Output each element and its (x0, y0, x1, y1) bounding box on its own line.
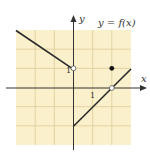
y-axis-label: y (78, 13, 85, 24)
x-tick-label: 1 (90, 91, 95, 100)
function-graph: y x y = f(x) 1 1 (0, 0, 150, 155)
open-point-0-1 (71, 66, 76, 71)
filled-point-2-1 (109, 66, 114, 71)
chart-title: y = f(x) (97, 17, 136, 28)
y-axis-arrow-icon (71, 15, 77, 22)
x-axis-arrow-icon (140, 85, 147, 91)
open-point-2-0 (109, 86, 114, 91)
x-axis-label: x (141, 73, 147, 84)
